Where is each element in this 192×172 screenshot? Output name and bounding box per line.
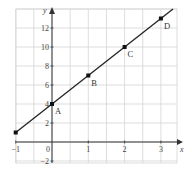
y-axis-arrow-icon <box>49 7 55 14</box>
y-tick-label: 10 <box>41 43 49 52</box>
point-label-d: D <box>164 21 170 31</box>
data-point-marker <box>50 102 54 106</box>
series-line <box>16 9 173 133</box>
data-point-marker <box>14 131 18 135</box>
y-tick-label: 2 <box>45 119 49 128</box>
data-point-marker <box>159 17 163 21</box>
point-label-a: A <box>55 106 62 116</box>
x-axis-label: x <box>179 145 184 154</box>
point-label-b: B <box>91 78 97 88</box>
point-label-c: C <box>128 49 134 59</box>
x-tick-label: −1 <box>11 145 20 154</box>
y-tick-label: −2 <box>40 157 49 166</box>
x-tick-label: 3 <box>159 145 163 154</box>
line-chart: xy −11230−224681012 ABCD <box>0 0 192 172</box>
origin-label: 0 <box>46 145 50 154</box>
y-tick-label: 6 <box>45 81 49 90</box>
data-point-marker <box>123 45 127 49</box>
data-point-marker <box>86 74 90 78</box>
data-points: ABCD <box>14 17 170 135</box>
y-tick-label: 8 <box>45 62 49 71</box>
y-tick-label: 12 <box>41 24 49 33</box>
x-tick-label: 2 <box>123 145 127 154</box>
y-axis-label: y <box>42 6 47 15</box>
x-tick-label: 1 <box>86 145 90 154</box>
data-series <box>16 9 173 133</box>
